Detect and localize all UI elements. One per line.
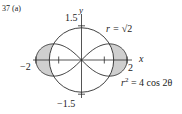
problem-label: 37 (a): [2, 5, 21, 13]
x-tick-right-label: 2: [128, 63, 133, 73]
y-tick-bottom-label: −1.5: [57, 99, 75, 109]
x-axis-label: x: [139, 54, 143, 64]
circle-eq-rhs: √2: [122, 23, 133, 34]
lemniscate-equation-label: r2 = 4 cos 2θ: [121, 77, 172, 88]
circle-equation-label: r = √2: [106, 24, 132, 34]
x-tick-left-label: −2: [20, 62, 31, 72]
y-axis-label: y: [79, 6, 83, 15]
polar-diagram: [0, 0, 182, 114]
y-tick-top-label: 1.5: [65, 13, 78, 23]
circle-eq-lhs: r =: [106, 23, 122, 34]
lem-eq-rhs: = 4 cos 2θ: [128, 77, 172, 88]
